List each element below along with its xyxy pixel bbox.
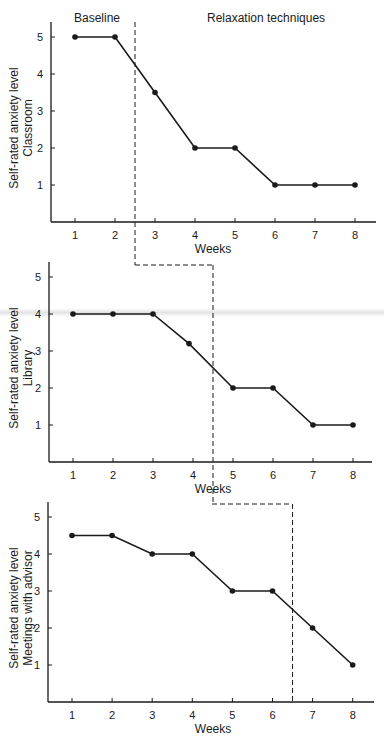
y-axis-label: Self-rated anxiety level — [7, 307, 21, 428]
data-point — [272, 182, 278, 188]
data-point — [72, 34, 78, 40]
x-tick-label: 8 — [350, 709, 356, 721]
x-tick-label: 5 — [232, 229, 238, 241]
x-tick-label: 3 — [150, 469, 156, 481]
x-tick-label: 7 — [310, 469, 316, 481]
x-tick-label: 1 — [70, 469, 76, 481]
panels: 1234512345678WeeksSelf-rated anxiety lev… — [7, 22, 376, 736]
data-point — [310, 422, 316, 428]
data-point — [312, 182, 318, 188]
panel-meetings-with-advisor: 1234512345678WeeksSelf-rated anxiety lev… — [7, 502, 374, 736]
x-tick-label: 8 — [352, 229, 358, 241]
y-tick-label: 4 — [37, 68, 43, 80]
data-point — [186, 341, 192, 347]
data-point — [310, 625, 316, 631]
data-point — [230, 385, 236, 391]
y-tick-label: 2 — [37, 142, 43, 154]
y-tick-label: 5 — [35, 271, 41, 283]
y-axis-label: Self-rated anxiety level — [7, 67, 21, 188]
data-point — [152, 90, 158, 96]
baseline-label: Baseline — [74, 11, 120, 25]
x-tick-label: 4 — [192, 229, 198, 241]
panel-library: 1234512345678WeeksSelf-rated anxiety lev… — [7, 262, 372, 504]
x-tick-label: 1 — [69, 709, 75, 721]
data-point — [270, 588, 276, 594]
treatment-label: Relaxation techniques — [207, 11, 325, 25]
x-tick-label: 7 — [310, 709, 316, 721]
x-tick-label: 5 — [229, 709, 235, 721]
data-point — [190, 551, 196, 557]
x-tick-label: 6 — [270, 469, 276, 481]
x-tick-label: 3 — [149, 709, 155, 721]
y-tick-label: 1 — [37, 179, 43, 191]
data-point — [230, 588, 236, 594]
data-point — [270, 385, 276, 391]
data-point — [70, 311, 76, 317]
x-tick-label: 3 — [152, 229, 158, 241]
x-tick-label: 6 — [272, 229, 278, 241]
data-line — [72, 536, 353, 666]
data-point — [150, 311, 156, 317]
x-tick-label: 4 — [189, 709, 195, 721]
y-tick-label: 3 — [35, 345, 41, 357]
x-tick-label: 2 — [110, 469, 116, 481]
data-line — [75, 37, 355, 185]
x-tick-label: 8 — [350, 469, 356, 481]
panel-classroom: 1234512345678WeeksSelf-rated anxiety lev… — [7, 22, 376, 265]
data-point — [110, 311, 116, 317]
data-point — [232, 145, 238, 151]
x-tick-label: 7 — [312, 229, 318, 241]
data-point — [352, 182, 358, 188]
x-tick-label: 4 — [190, 469, 196, 481]
multiple-baseline-chart: Baseline Relaxation techniques 123451234… — [0, 0, 384, 736]
x-axis-label: Weeks — [195, 722, 231, 736]
data-point — [109, 533, 115, 539]
data-point — [350, 422, 356, 428]
y-tick-label: 5 — [34, 511, 40, 523]
y-axis-label: Self-rated anxiety level — [7, 547, 21, 668]
x-axis-label: Weeks — [195, 242, 231, 256]
data-point — [192, 145, 198, 151]
x-tick-label: 2 — [109, 709, 115, 721]
data-point — [350, 662, 356, 668]
y-tick-label: 1 — [35, 419, 41, 431]
y-tick-label: 3 — [37, 105, 43, 117]
y-axis-sublabel: Library — [21, 350, 35, 387]
phase-labels: Baseline Relaxation techniques — [74, 11, 325, 25]
x-tick-label: 2 — [112, 229, 118, 241]
data-point — [149, 551, 155, 557]
y-tick-label: 5 — [37, 31, 43, 43]
y-axis-sublabel: Meetings with advisor — [21, 550, 35, 665]
x-tick-label: 1 — [72, 229, 78, 241]
x-tick-label: 5 — [230, 469, 236, 481]
y-axis-sublabel: Classroom — [21, 99, 35, 156]
y-tick-label: 4 — [35, 308, 41, 320]
y-tick-label: 2 — [35, 382, 41, 394]
data-point — [112, 34, 118, 40]
data-point — [69, 533, 75, 539]
x-tick-label: 6 — [269, 709, 275, 721]
